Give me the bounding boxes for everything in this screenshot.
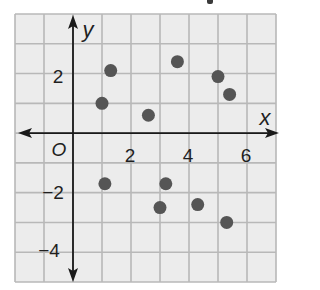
data-point (98, 177, 111, 190)
data-point (159, 177, 172, 190)
y-tick-label-neg4: −4 (38, 241, 60, 260)
data-point (104, 64, 117, 77)
data-point (96, 97, 109, 110)
x-axis-label: x (260, 107, 271, 129)
y-axis-label: y (83, 19, 94, 41)
cropped-text-fragment (207, 0, 213, 4)
data-point (191, 198, 204, 211)
y-tick-label-2: 2 (53, 67, 64, 86)
x-tick-label-6: 6 (241, 146, 252, 165)
data-point (154, 201, 167, 214)
data-point (220, 216, 233, 229)
data-point (223, 88, 236, 101)
origin-label: O (52, 140, 67, 159)
y-tick-label-neg2: −2 (42, 183, 64, 202)
x-tick-label-2: 2 (125, 146, 136, 165)
x-tick-label-4: 4 (183, 146, 194, 165)
data-point (171, 55, 184, 68)
data-point (212, 70, 225, 83)
data-point (142, 109, 155, 122)
